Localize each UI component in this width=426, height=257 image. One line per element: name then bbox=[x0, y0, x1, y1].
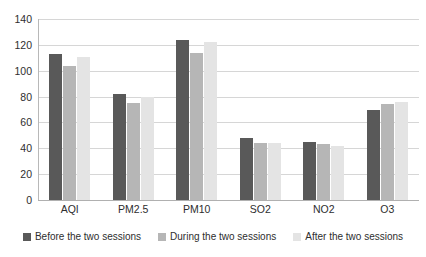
axis-baseline bbox=[38, 200, 419, 201]
bar-group bbox=[292, 19, 356, 200]
bar bbox=[204, 42, 217, 200]
x-tick-label: PM2.5 bbox=[102, 203, 166, 215]
bar bbox=[317, 144, 330, 200]
bar bbox=[367, 110, 380, 201]
y-tick-label: 100 bbox=[2, 65, 32, 77]
y-tick-label: 20 bbox=[2, 168, 32, 180]
y-axis-tick-labels: 020406080100120140 bbox=[0, 19, 32, 200]
bar bbox=[240, 138, 253, 200]
legend-label: Before the two sessions bbox=[35, 231, 141, 242]
legend-item[interactable]: After the two sessions bbox=[293, 231, 403, 242]
legend-label: During the two sessions bbox=[170, 231, 276, 242]
bar bbox=[113, 94, 126, 200]
bar-group bbox=[102, 19, 166, 200]
bar bbox=[331, 146, 344, 200]
legend-item[interactable]: Before the two sessions bbox=[23, 231, 141, 242]
bar bbox=[395, 102, 408, 200]
bar bbox=[141, 97, 154, 200]
bar bbox=[303, 142, 316, 200]
bar bbox=[176, 40, 189, 200]
y-tick-label: 60 bbox=[2, 116, 32, 128]
legend-swatch-icon bbox=[293, 233, 301, 241]
bar-group bbox=[356, 19, 420, 200]
x-tick-label: NO2 bbox=[292, 203, 356, 215]
bar bbox=[381, 104, 394, 200]
y-tick-label: 120 bbox=[2, 39, 32, 51]
bar bbox=[77, 57, 90, 201]
bar bbox=[49, 54, 62, 200]
legend-swatch-icon bbox=[158, 233, 166, 241]
bar-group bbox=[38, 19, 102, 200]
y-tick-label: 140 bbox=[2, 13, 32, 25]
chart-legend: Before the two sessionsDuring the two se… bbox=[0, 231, 426, 242]
legend-label: After the two sessions bbox=[305, 231, 403, 242]
bar bbox=[254, 143, 267, 200]
y-tick-label: 0 bbox=[2, 194, 32, 206]
legend-item[interactable]: During the two sessions bbox=[158, 231, 276, 242]
bar-group bbox=[165, 19, 229, 200]
x-tick-label: SO2 bbox=[229, 203, 293, 215]
x-tick-label: O3 bbox=[356, 203, 420, 215]
x-tick-label: AQI bbox=[38, 203, 102, 215]
bar-chart: 020406080100120140 AQIPM2.5PM10SO2NO2O3 … bbox=[0, 0, 426, 257]
y-tick-label: 40 bbox=[2, 142, 32, 154]
bar bbox=[190, 53, 203, 200]
x-axis-tick-labels: AQIPM2.5PM10SO2NO2O3 bbox=[38, 203, 419, 215]
x-tick-label: PM10 bbox=[165, 203, 229, 215]
bar bbox=[63, 66, 76, 200]
bar-group bbox=[229, 19, 293, 200]
bar bbox=[127, 103, 140, 200]
bar-groups bbox=[38, 19, 419, 200]
y-tick-label: 80 bbox=[2, 91, 32, 103]
bar bbox=[268, 143, 281, 200]
legend-swatch-icon bbox=[23, 233, 31, 241]
